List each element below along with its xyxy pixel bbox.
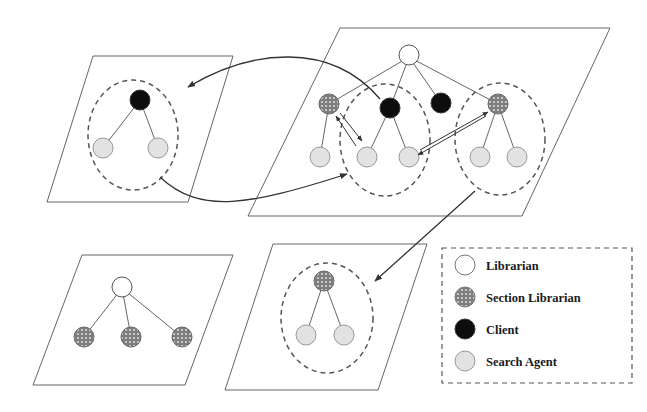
section-librarian-node bbox=[488, 94, 508, 114]
search-agent-node bbox=[93, 138, 113, 158]
search-agent-node bbox=[148, 138, 168, 158]
plane-section-detail bbox=[225, 244, 427, 390]
search-agent-legend-icon bbox=[455, 351, 475, 371]
section-librarian-node bbox=[314, 271, 334, 291]
legend-item-search-agent: Search Agent bbox=[455, 351, 558, 371]
client-node bbox=[130, 90, 150, 110]
search-agent-node bbox=[507, 147, 527, 167]
search-agent-node bbox=[470, 147, 490, 167]
search-agent-node bbox=[296, 325, 316, 345]
legend-label: Search Agent bbox=[486, 355, 558, 369]
section-librarian-legend-icon bbox=[455, 287, 475, 307]
section-librarian-node bbox=[172, 327, 192, 347]
legend-label: Client bbox=[486, 323, 519, 337]
multi-agent-library-diagram: Librarian Section Librarian Client Searc… bbox=[0, 0, 647, 412]
legend-label: Section Librarian bbox=[486, 291, 581, 305]
legend-label: Librarian bbox=[486, 259, 539, 273]
section-librarian-node bbox=[319, 94, 339, 114]
librarian-legend-icon bbox=[455, 255, 475, 275]
search-agent-node bbox=[399, 147, 419, 167]
legend-item-librarian: Librarian bbox=[455, 255, 539, 275]
plane-library-sections bbox=[33, 255, 233, 385]
arrow-client-to-left-plane bbox=[188, 57, 380, 99]
arrow-left-group-to-main-group bbox=[160, 174, 347, 202]
search-agent-node bbox=[310, 147, 330, 167]
legend-item-section-librarian: Section Librarian bbox=[455, 287, 581, 307]
section-librarian-node bbox=[121, 327, 141, 347]
search-agent-node bbox=[334, 325, 354, 345]
client-node bbox=[380, 98, 400, 118]
legend-item-client: Client bbox=[455, 319, 519, 339]
librarian-node bbox=[399, 45, 419, 65]
client-node bbox=[431, 93, 451, 113]
client-legend-icon bbox=[455, 319, 475, 339]
librarian-node bbox=[112, 277, 132, 297]
search-agent-node bbox=[357, 147, 377, 167]
section-librarian-node bbox=[74, 327, 94, 347]
legend: Librarian Section Librarian Client Searc… bbox=[442, 248, 632, 383]
